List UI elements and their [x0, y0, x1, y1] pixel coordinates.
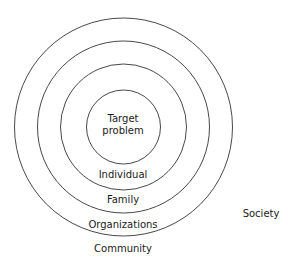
society-label: Society: [243, 208, 280, 220]
ecological-model-diagram: Target problem Individual Family Organiz…: [0, 0, 288, 267]
individual-label: Individual: [99, 169, 148, 181]
family-label: Family: [107, 194, 139, 206]
target-problem-line1: Target: [102, 113, 143, 125]
target-problem-label: Target problem: [102, 113, 143, 137]
organizations-label: Organizations: [88, 219, 157, 231]
community-label: Community: [94, 243, 152, 255]
target-problem-line2: problem: [102, 125, 143, 137]
